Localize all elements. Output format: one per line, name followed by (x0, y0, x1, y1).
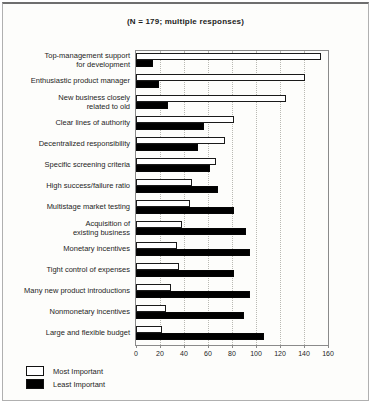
category-row: Large and flexible budget (6, 323, 328, 344)
bar-group (135, 92, 328, 113)
category-label: Acquisition of existing business (6, 218, 135, 239)
most-important-bar (136, 158, 216, 165)
x-tick-mark (328, 345, 329, 348)
category-label: Nonmonetary incentives (6, 302, 135, 323)
category-label: New business closely related to old (6, 92, 135, 113)
least-important-bar (136, 81, 159, 88)
x-tick-label: 120 (274, 350, 286, 357)
category-row: Specific screening criteria (6, 155, 328, 176)
most-important-bar (136, 263, 179, 270)
least-important-bar (136, 333, 264, 340)
x-tick-mark (184, 345, 185, 348)
bar-group (135, 302, 328, 323)
most-important-bar (136, 284, 171, 291)
least-important-bar (136, 249, 250, 256)
bar-group (135, 50, 328, 71)
category-row: New business closely related to old (6, 92, 328, 113)
legend-item-least-important: Least Important (26, 378, 105, 390)
bar-group (135, 71, 328, 92)
category-label: Top-management support for development (6, 50, 135, 71)
category-row: Enthusiastic product manager (6, 71, 328, 92)
bar-group (135, 155, 328, 176)
least-important-bar (136, 165, 210, 172)
category-row: Tight control of expenses (6, 260, 328, 281)
category-label: Specific screening criteria (6, 155, 135, 176)
most-important-bar (136, 221, 182, 228)
category-label: Clear lines of authority (6, 113, 135, 134)
least-important-bar (136, 228, 246, 235)
most-important-bar (136, 200, 190, 207)
x-tick-label: 160 (322, 350, 334, 357)
bar-group (135, 218, 328, 239)
least-important-bar (136, 102, 168, 109)
most-important-swatch (26, 366, 44, 376)
category-row: High success/failure ratio (6, 176, 328, 197)
bar-group (135, 239, 328, 260)
x-tick-mark (304, 345, 305, 348)
least-important-bar (136, 186, 218, 193)
most-important-bar (136, 326, 162, 333)
bar-rows: Top-management support for developmentEn… (6, 50, 328, 344)
bar-group (135, 197, 328, 218)
x-tick-mark (280, 345, 281, 348)
category-label: Many new product introductions (6, 281, 135, 302)
x-axis: 020406080100120140160 (135, 345, 329, 361)
x-tick-label: 100 (250, 350, 262, 357)
least-important-bar (136, 312, 244, 319)
category-label: Multistage market testing (6, 197, 135, 218)
category-row: Clear lines of authority (6, 113, 328, 134)
least-important-bar (136, 123, 204, 130)
bar-group (135, 113, 328, 134)
x-tick-mark (208, 345, 209, 348)
figure-frame: (N = 179; multiple responses) Top-manage… (2, 2, 369, 401)
category-label: Monetary incentives (6, 239, 135, 260)
most-important-bar (136, 53, 321, 60)
x-tick-label: 80 (228, 350, 236, 357)
x-tick-mark (232, 345, 233, 348)
x-tick-mark (160, 345, 161, 348)
most-important-bar (136, 95, 286, 102)
chart-title: (N = 179; multiple responses) (3, 17, 368, 26)
category-label: Tight control of expenses (6, 260, 135, 281)
category-label: Enthusiastic product manager (6, 71, 135, 92)
category-label: High success/failure ratio (6, 176, 135, 197)
least-important-swatch (26, 379, 44, 389)
category-row: Monetary incentives (6, 239, 328, 260)
most-important-bar (136, 179, 192, 186)
category-row: Acquisition of existing business (6, 218, 328, 239)
most-important-bar (136, 305, 166, 312)
legend-item-most-important: Most Important (26, 365, 105, 377)
legend: Most Important Least Important (26, 365, 105, 390)
category-row: Top-management support for development (6, 50, 328, 71)
category-row: Nonmonetary incentives (6, 302, 328, 323)
most-important-bar (136, 74, 305, 81)
least-important-bar (136, 270, 234, 277)
x-tick-label: 20 (156, 350, 164, 357)
x-tick-label: 140 (298, 350, 310, 357)
least-important-bar (136, 144, 198, 151)
legend-label: Least Important (53, 380, 105, 389)
category-row: Many new product introductions (6, 281, 328, 302)
most-important-bar (136, 137, 225, 144)
category-row: Multistage market testing (6, 197, 328, 218)
category-row: Decentralized responsibility (6, 134, 328, 155)
category-label: Large and flexible budget (6, 323, 135, 344)
least-important-bar (136, 291, 250, 298)
x-tick-mark (256, 345, 257, 348)
legend-label: Most Important (53, 367, 103, 376)
bar-group (135, 281, 328, 302)
bar-group (135, 134, 328, 155)
least-important-bar (136, 207, 234, 214)
most-important-bar (136, 116, 234, 123)
x-tick-label: 40 (180, 350, 188, 357)
least-important-bar (136, 60, 153, 67)
most-important-bar (136, 242, 177, 249)
bar-group (135, 260, 328, 281)
bar-group (135, 176, 328, 197)
x-tick-mark (136, 345, 137, 348)
bar-group (135, 323, 328, 344)
x-tick-label: 0 (134, 350, 138, 357)
x-tick-label: 60 (204, 350, 212, 357)
category-label: Decentralized responsibility (6, 134, 135, 155)
